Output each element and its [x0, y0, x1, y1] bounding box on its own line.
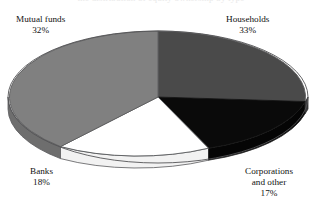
label-mutual-funds-name: Mutual funds: [16, 14, 65, 24]
label-households: Households 33%: [226, 14, 269, 36]
label-banks: Banks 18%: [30, 166, 53, 188]
pie-chart-figure: the distribution of equity ownership by …: [0, 0, 322, 204]
label-households-percent: 33%: [226, 25, 269, 36]
pie-slice-households: [158, 31, 306, 102]
label-mutual-funds-percent: 32%: [16, 25, 65, 36]
label-banks-name: Banks: [30, 166, 53, 176]
label-corporations: Corporations and other 17%: [245, 166, 293, 200]
label-corporations-line2: and other: [245, 177, 293, 188]
label-banks-percent: 18%: [30, 177, 53, 188]
label-corporations-percent: 17%: [245, 188, 293, 199]
label-households-name: Households: [226, 14, 269, 24]
label-corporations-line1: Corporations: [245, 166, 293, 176]
label-mutual-funds: Mutual funds 32%: [16, 14, 65, 36]
